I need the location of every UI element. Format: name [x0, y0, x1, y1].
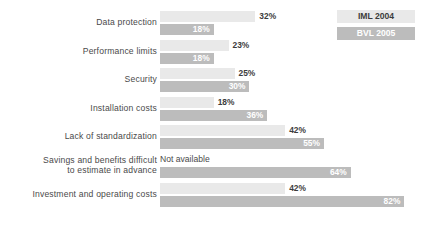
bar-row: Investment and operating costs42%82%: [0, 183, 425, 207]
bar-group: Not available64%: [160, 154, 351, 178]
grouped-bar-chart: IML 2004 BVL 2005 Data protection32%18%P…: [0, 0, 425, 232]
bar-value-iml-2004: 23%: [229, 40, 250, 51]
bar-group: 42%55%: [160, 125, 324, 149]
bar-bvl-2005[interactable]: 82%: [160, 196, 404, 207]
bar-bvl-2005[interactable]: 18%: [160, 24, 214, 35]
bar-row: Data protection32%18%: [0, 11, 425, 35]
bar-group: 25%30%: [160, 68, 249, 92]
bar-value-iml-2004: 42%: [285, 183, 306, 194]
bar-value-bvl-2005: 18%: [193, 53, 210, 64]
bar-group: 23%18%: [160, 40, 229, 64]
category-label: Installation costs: [7, 103, 157, 113]
bar-bvl-2005[interactable]: 30%: [160, 81, 249, 92]
bar-iml-2004[interactable]: 42%: [160, 183, 285, 194]
bar-iml-2004[interactable]: 32%: [160, 11, 255, 22]
bar-group: 32%18%: [160, 11, 255, 35]
bar-row: Performance limits23%18%: [0, 40, 425, 64]
bar-iml-2004[interactable]: 42%: [160, 125, 285, 136]
bar-value-iml-2004: 18%: [214, 97, 235, 108]
category-label: Data protection: [7, 17, 157, 27]
bar-bvl-2005[interactable]: 36%: [160, 110, 267, 121]
bar-value-bvl-2005: 18%: [193, 24, 210, 35]
bar-value-bvl-2005: 30%: [229, 81, 246, 92]
bar-value-bvl-2005: 64%: [330, 167, 347, 178]
bar-value-iml-2004: Not available: [160, 154, 210, 165]
category-label: Lack of standardization: [7, 131, 157, 141]
bar-value-bvl-2005: 36%: [247, 110, 264, 121]
bar-value-iml-2004: 25%: [235, 68, 256, 79]
bar-iml-2004[interactable]: 23%: [160, 40, 229, 51]
bar-value-iml-2004: 42%: [285, 125, 306, 136]
bar-group: 42%82%: [160, 183, 404, 207]
category-label: Investment and operating costs: [7, 189, 157, 199]
bar-row: Installation costs18%36%: [0, 97, 425, 121]
bar-iml-2004[interactable]: 25%: [160, 68, 235, 79]
bar-value-iml-2004: 32%: [255, 11, 276, 22]
bar-row: Security25%30%: [0, 68, 425, 92]
bar-row: Lack of standardization42%55%: [0, 125, 425, 149]
bar-iml-2004[interactable]: 18%: [160, 97, 214, 108]
bar-group: 18%36%: [160, 97, 267, 121]
category-label: Performance limits: [7, 46, 157, 56]
bar-bvl-2005[interactable]: 18%: [160, 53, 214, 64]
bar-bvl-2005[interactable]: 64%: [160, 167, 351, 178]
category-label: Security: [7, 74, 157, 84]
bar-value-bvl-2005: 82%: [384, 196, 401, 207]
bar-bvl-2005[interactable]: 55%: [160, 138, 324, 149]
category-label: Savings and benefits difficultto estimat…: [7, 155, 157, 176]
bar-row: Savings and benefits difficultto estimat…: [0, 154, 425, 178]
bar-iml-2004-not-available: Not available: [160, 154, 351, 165]
bar-value-bvl-2005: 55%: [303, 138, 320, 149]
